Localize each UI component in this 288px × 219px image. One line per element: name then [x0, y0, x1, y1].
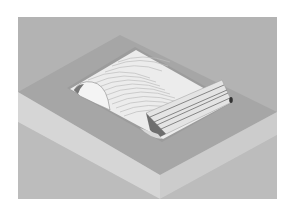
cad-render	[0, 0, 288, 219]
block-illustration	[0, 0, 288, 219]
corner-hole	[229, 97, 233, 103]
